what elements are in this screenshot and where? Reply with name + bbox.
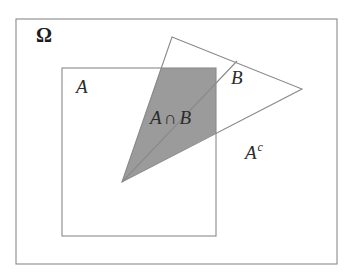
label-set-b: B <box>231 68 243 87</box>
label-complement-base: A <box>245 142 257 163</box>
label-intersection-b: B <box>180 107 192 128</box>
label-intersection-a: A <box>150 107 162 128</box>
set-diagram-svg <box>0 0 360 278</box>
label-set-a: A <box>76 77 88 96</box>
figure-canvas: Ω A B A∩B Ac <box>0 0 360 278</box>
label-a-complement: Ac <box>245 142 262 162</box>
label-omega: Ω <box>36 25 52 45</box>
intersection-symbol-icon: ∩ <box>162 108 180 128</box>
label-a-intersect-b: A∩B <box>150 108 192 127</box>
label-complement-exponent: c <box>258 140 263 154</box>
